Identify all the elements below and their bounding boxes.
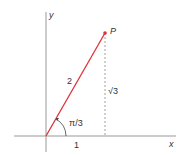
point-label: P	[110, 26, 116, 36]
hypotenuse-label: 2	[67, 76, 72, 86]
point-p	[103, 31, 107, 35]
angle-label: π/3	[69, 118, 83, 128]
adjacent-label: 1	[74, 140, 79, 150]
x-axis-label: x	[168, 139, 174, 149]
angle-arc	[56, 119, 66, 136]
opposite-label: √3	[108, 86, 118, 96]
diagram-canvas: y x P 2 √3 π/3 1	[0, 0, 186, 155]
y-axis-label: y	[48, 10, 54, 20]
